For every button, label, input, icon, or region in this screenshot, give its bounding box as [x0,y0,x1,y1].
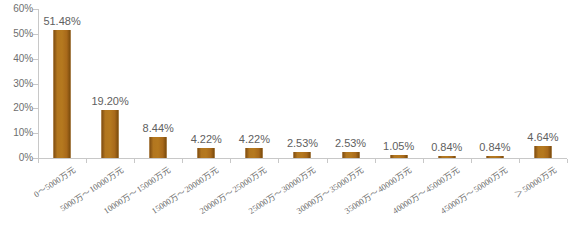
x-axis-tick [230,159,231,163]
bar-value-label: 4.22% [239,134,270,145]
y-axis-tick-label: 30% [0,79,33,89]
bar-value-label: 8.44% [143,123,174,134]
x-axis-tick [278,159,279,163]
x-axis-tick [182,159,183,163]
bar-value-label: 4.64% [527,132,558,143]
bar[interactable] [102,110,119,158]
x-axis-category-label: ＞50000万元 [512,163,559,199]
bar[interactable] [150,137,167,158]
y-axis-tick-label-text: 20% [1,103,33,113]
bar-chart: 0%10%20%30%40%50%60% 51.48%19.20%8.44%4.… [0,0,571,241]
bar-group[interactable]: 51.48% [38,9,86,158]
bar-group[interactable]: 1.05% [375,9,423,158]
bar[interactable] [54,30,71,158]
x-axis-tick [327,159,328,163]
bar[interactable] [534,146,551,158]
bar-group[interactable]: 2.53% [278,9,326,158]
bar-value-label: 51.48% [43,16,80,27]
bar-group[interactable]: 2.53% [327,9,375,158]
x-axis-tick [567,159,568,163]
bar[interactable] [294,152,311,158]
bar-group[interactable]: 8.44% [134,9,182,158]
bar[interactable] [198,148,215,158]
x-axis-tick [519,159,520,163]
bar[interactable] [390,155,407,158]
y-axis-tick-label: 60% [0,4,33,14]
bar-group[interactable]: 19.20% [86,9,134,158]
y-axis-tick-label-text: 50% [1,29,33,39]
bar-value-label: 0.84% [479,142,510,153]
x-axis-tick [375,159,376,163]
y-axis-tick-label: 10% [0,128,33,138]
y-axis-tick-label: 0% [0,153,33,163]
x-axis-line [38,158,567,159]
bar[interactable] [342,152,359,158]
y-axis-tick-label-text: 0% [1,153,33,163]
bar[interactable] [438,156,455,158]
bar-value-label: 4.22% [191,134,222,145]
bar-value-label: 2.53% [335,138,366,149]
bar-value-label: 2.53% [287,138,318,149]
y-axis-tick-label-text: 60% [1,4,33,14]
x-axis-tick [134,159,135,163]
bar-group[interactable]: 4.22% [182,9,230,158]
bar-value-label: 19.20% [91,96,128,107]
y-axis-tick-label: 20% [0,103,33,113]
bar-value-label: 0.84% [431,142,462,153]
y-axis-tick-label: 50% [0,29,33,39]
plot-area: 51.48%19.20%8.44%4.22%4.22%2.53%2.53%1.0… [38,9,567,158]
bar[interactable] [246,148,263,158]
bar[interactable] [486,156,503,158]
y-axis-tick-label-text: 40% [1,54,33,64]
bar-group[interactable]: 4.22% [230,9,278,158]
bar-group[interactable]: 4.64% [519,9,567,158]
y-axis-tick-label-text: 30% [1,79,33,89]
x-axis-tick [423,159,424,163]
y-axis-tick-label: 40% [0,54,33,64]
bar-group[interactable]: 0.84% [423,9,471,158]
bar-value-label: 1.05% [383,141,414,152]
x-axis-category-label-text: ＞50000万元 [512,163,559,199]
x-axis-tick [86,159,87,163]
x-axis-tick [471,159,472,163]
y-axis-tick-label-text: 10% [1,128,33,138]
x-axis-tick [38,159,39,163]
bar-group[interactable]: 0.84% [471,9,519,158]
